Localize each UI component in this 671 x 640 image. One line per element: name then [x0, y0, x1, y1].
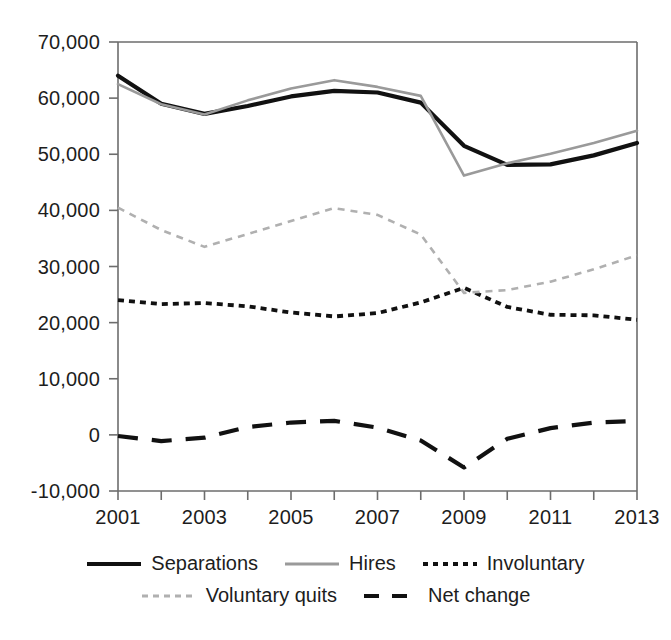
legend-row-1: SeparationsHiresInvoluntary — [0, 552, 671, 575]
line-dashed-black-long-icon — [363, 589, 419, 603]
legend-item-voluntary-quits[interactable]: Voluntary quits — [141, 584, 337, 607]
legend-item-net-change[interactable]: Net change — [363, 584, 530, 607]
line-dotted-black-icon — [422, 557, 478, 571]
x-axis-ticks — [118, 491, 637, 500]
x-axis-tick-label: 2009 — [441, 506, 486, 529]
line-chart: 70,00060,00050,00040,00030,00020,00010,0… — [0, 0, 671, 640]
x-axis-tick-label: 2003 — [182, 506, 227, 529]
plot-area — [0, 0, 671, 640]
legend-label: Net change — [428, 584, 530, 607]
series-line-net-change — [118, 421, 637, 468]
x-axis-tick-label: 2011 — [529, 506, 573, 529]
y-axis-tick-label: 30,000 — [0, 255, 100, 278]
data-series-layer — [118, 76, 637, 468]
series-line-involuntary — [118, 288, 637, 320]
x-axis-tick-label: 2005 — [268, 506, 313, 529]
line-dashed-gray-icon — [141, 589, 197, 603]
y-axis-tick-label: 10,000 — [0, 367, 100, 390]
y-axis-ticks — [109, 42, 118, 491]
legend-label: Separations — [151, 552, 258, 575]
axis-frame — [118, 42, 637, 491]
x-axis-tick-label: 2007 — [355, 506, 400, 529]
series-line-voluntary-quits — [118, 208, 637, 293]
y-axis-tick-label: 0 — [0, 423, 100, 446]
legend-label: Hires — [349, 552, 396, 575]
y-axis-tick-label: 40,000 — [0, 199, 100, 222]
line-solid-thick-black-icon — [86, 557, 142, 571]
y-axis-tick-label: 50,000 — [0, 143, 100, 166]
legend-item-separations[interactable]: Separations — [86, 552, 258, 575]
line-solid-gray-icon — [284, 557, 340, 571]
y-axis-tick-label: 20,000 — [0, 311, 100, 334]
legend-item-hires[interactable]: Hires — [284, 552, 396, 575]
legend-row-2: Voluntary quitsNet change — [0, 584, 671, 607]
x-axis-tick-label: 2001 — [95, 506, 140, 529]
y-axis-tick-label: 70,000 — [0, 31, 100, 54]
y-axis-tick-label: 60,000 — [0, 87, 100, 110]
legend-item-involuntary[interactable]: Involuntary — [422, 552, 585, 575]
legend-label: Voluntary quits — [206, 584, 337, 607]
y-axis-tick-label: -10,000 — [0, 480, 100, 503]
legend-label: Involuntary — [487, 552, 585, 575]
chart-legend: SeparationsHiresInvoluntary Voluntary qu… — [0, 552, 671, 616]
x-axis-tick-label: 2013 — [614, 506, 659, 529]
